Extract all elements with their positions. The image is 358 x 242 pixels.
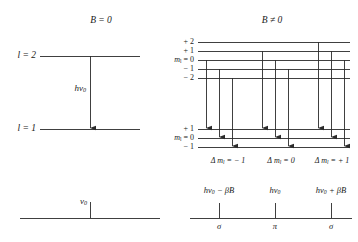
selection-rule-delta-minus-one: Δ ml = − 1 xyxy=(211,157,246,166)
figure-canvas xyxy=(0,0,358,242)
transition-energy-subscript: 0 xyxy=(83,87,86,93)
spectrum-energy-label-sigma-minus: hν0 − βB xyxy=(204,186,234,196)
lower-ml-subscript: l xyxy=(180,136,182,142)
upper-sublevel-label-plus2: + 2 xyxy=(183,38,194,46)
level-label-l1: l = 1 xyxy=(17,124,36,134)
upper-ml-equals: = xyxy=(183,55,188,64)
selection-rule-delta-plus-one: Δ ml = + 1 xyxy=(315,157,350,166)
polarization-label-sigma-plus: σ xyxy=(329,222,333,231)
transition-energy-label: hν0 xyxy=(74,84,86,93)
delta-value-zero: = 0 xyxy=(283,156,294,165)
polarization-label-pi: π xyxy=(273,222,277,231)
energy-main-sigma-minus: hν xyxy=(204,185,212,195)
energy-main-sigma-plus: hν xyxy=(316,185,324,195)
panel-title-with-field: B ≠ 0 xyxy=(262,16,283,26)
polarization-label-sigma-minus: σ xyxy=(217,222,221,231)
lower-sublevel-label-minus1: − 1 xyxy=(183,143,194,151)
energy-main-pi: hν xyxy=(270,185,278,195)
upper-ml-value: 0 xyxy=(190,55,194,64)
zeeman-effect-figure: B = 0 B ≠ 0 l = 2 l = 1 hν0 ν0 + 2 + 1 m… xyxy=(0,0,358,242)
energy-sub-pi: 0 xyxy=(278,189,281,195)
delta-m-sub-plus-one: l xyxy=(327,159,329,165)
delta-value-minus-one: = − 1 xyxy=(227,156,246,165)
level-label-l2: l = 2 xyxy=(17,51,36,61)
lower-sublevel-label-plus1: + 1 xyxy=(183,125,194,133)
upper-sublevel-label-minus2: − 2 xyxy=(183,74,194,82)
delta-m-sub-zero: l xyxy=(280,159,282,165)
upper-sublevel-label-minus1: − 1 xyxy=(183,65,194,73)
delta-symbol-plus-one: Δ xyxy=(315,156,320,165)
spectrum-energy-label-pi: hν0 xyxy=(270,186,281,196)
transition-energy-main: hν xyxy=(74,83,83,93)
delta-symbol-zero: Δ xyxy=(267,156,272,165)
lower-ml-value: 0 xyxy=(190,133,194,142)
spectrum-energy-label-sigma-plus: hν0 + βB xyxy=(316,186,346,196)
panel-title-no-field: B = 0 xyxy=(90,16,112,26)
upper-ml-subscript: l xyxy=(180,58,182,64)
lower-ml-equals: = xyxy=(183,133,188,142)
energy-suffix-sigma-plus: + βB xyxy=(327,185,346,195)
energy-suffix-sigma-minus: − βB xyxy=(215,185,234,195)
upper-sublevel-label-plus1: + 1 xyxy=(183,47,194,55)
delta-symbol-minus-one: Δ xyxy=(211,156,216,165)
left-spectrum-frequency-label: ν0 xyxy=(80,197,87,206)
selection-rule-delta-zero: Δ ml = 0 xyxy=(267,157,294,166)
delta-m-sub-minus-one: l xyxy=(223,159,225,165)
left-spectrum-frequency-subscript: 0 xyxy=(84,200,87,206)
delta-value-plus-one: = + 1 xyxy=(331,156,350,165)
